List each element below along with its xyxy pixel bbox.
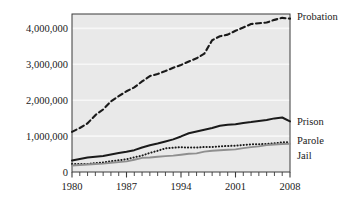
series-label-probation: Probation [297,11,339,22]
x-axis-label: 2008 [280,181,301,192]
y-axis-label: 1,000,000 [26,131,68,142]
plot-area-background [72,14,290,172]
incarceration-line-chart: 01,000,0002,000,0003,000,0004,000,000 19… [0,0,360,204]
y-axis-label: 2,000,000 [26,95,68,106]
series-label-parole: Parole [297,135,324,146]
chart-container: 01,000,0002,000,0003,000,0004,000,000 19… [0,0,360,204]
series-label-prison: Prison [297,116,325,127]
y-axis-label: 4,000,000 [26,23,68,34]
x-axis-label: 1994 [171,181,193,192]
y-axis-label: 0 [63,167,68,178]
x-axis-label: 1987 [116,181,137,192]
x-axis-label: 1980 [62,181,83,192]
series-label-jail: Jail [297,150,312,161]
x-axis-label: 2001 [225,181,246,192]
y-axis-label: 3,000,000 [26,59,68,70]
